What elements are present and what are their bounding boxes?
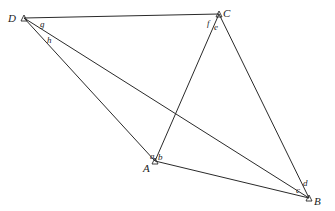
geometry-diagram: D C A B g h f e a b c d [0, 0, 335, 211]
angle-label-f: f [207, 18, 211, 28]
angle-label-e: e [214, 22, 218, 32]
segment-CA [155, 14, 219, 161]
angle-label-h: h [47, 35, 52, 45]
segment-DB [24, 18, 309, 198]
segment-AB [155, 161, 309, 198]
vertex-label-B: B [314, 195, 321, 207]
vertex-label-A: A [142, 162, 150, 174]
angle-label-g: g [40, 19, 45, 29]
vertex-label-C: C [223, 7, 231, 19]
segment-CB [219, 14, 309, 198]
angle-label-b: b [158, 152, 163, 162]
angle-label-a: a [150, 151, 155, 161]
segment-DC [24, 14, 219, 18]
vertex-label-D: D [7, 12, 16, 24]
segment-DA [24, 18, 155, 161]
angle-label-c: c [296, 185, 300, 195]
angle-label-d: d [303, 178, 308, 188]
